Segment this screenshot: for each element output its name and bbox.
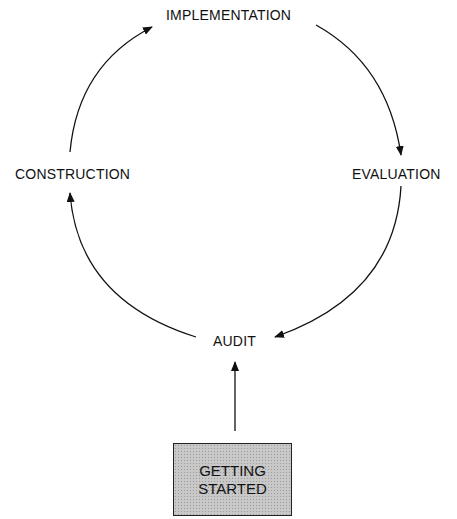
arrow-implementation-to-evaluation bbox=[316, 25, 401, 155]
node-audit: AUDIT bbox=[213, 333, 256, 349]
arrow-audit-to-construction bbox=[70, 193, 196, 337]
start-label-line2: STARTED bbox=[198, 480, 267, 498]
node-construction: CONSTRUCTION bbox=[15, 166, 130, 182]
node-implementation: IMPLEMENTATION bbox=[166, 7, 291, 23]
start-label-line1: GETTING bbox=[199, 462, 266, 480]
cycle-diagram: IMPLEMENTATION EVALUATION CONSTRUCTION A… bbox=[0, 0, 457, 519]
node-evaluation: EVALUATION bbox=[352, 166, 441, 182]
node-getting-started: GETTING STARTED bbox=[173, 443, 292, 516]
arrows-layer bbox=[0, 0, 457, 519]
arrow-evaluation-to-audit bbox=[275, 186, 401, 337]
arrow-construction-to-implementation bbox=[70, 27, 152, 152]
